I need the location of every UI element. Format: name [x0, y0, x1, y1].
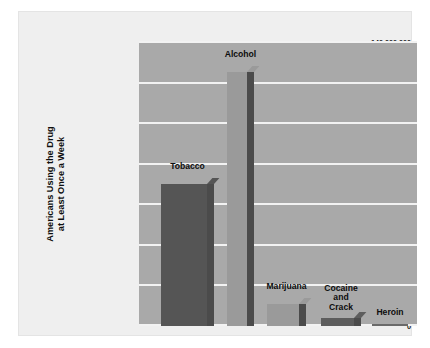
- y-axis-title-line-1: Americans Using the Drug: [45, 126, 55, 241]
- bar-label-line: Alcohol: [225, 49, 257, 59]
- plot-area: TobaccoAlcoholMarijuanaCocaineandCrackHe…: [139, 42, 417, 326]
- bar-face: [372, 324, 408, 326]
- y-axis-title-line-2: at Least Once a Week: [56, 137, 66, 231]
- bar-label-line: and: [333, 292, 348, 302]
- bar-cocaine-and-crack: [321, 318, 354, 326]
- bar-face: [161, 184, 207, 326]
- y-axis-title: Americans Using the Drug at Least Once a…: [43, 42, 69, 326]
- gridline: [139, 82, 417, 84]
- y-axis-title-text: Americans Using the Drug at Least Once a…: [45, 126, 68, 241]
- bar-heroin: [372, 324, 408, 326]
- bar-label-alcohol: Alcohol: [181, 50, 301, 60]
- bar-side-face: [207, 184, 214, 326]
- bar-tobacco: [161, 184, 207, 326]
- bar-side-face: [354, 318, 361, 326]
- bar-label-tobacco: Tobacco: [128, 162, 248, 172]
- bar-label-line: Cocaine: [324, 283, 357, 293]
- bar-face: [321, 318, 354, 326]
- bar-top-face: [207, 178, 219, 184]
- gridline: [139, 41, 417, 43]
- chart-card: Americans Using the Drug at Least Once a…: [18, 11, 412, 336]
- bar-label-heroin: Heroin: [330, 308, 430, 318]
- bar-top-face: [247, 66, 259, 72]
- chart-figure: Americans Using the Drug at Least Once a…: [0, 0, 430, 348]
- bar-label-line: Tobacco: [170, 161, 205, 171]
- gridline: [139, 122, 417, 124]
- bar-label-line: Heroin: [376, 307, 403, 317]
